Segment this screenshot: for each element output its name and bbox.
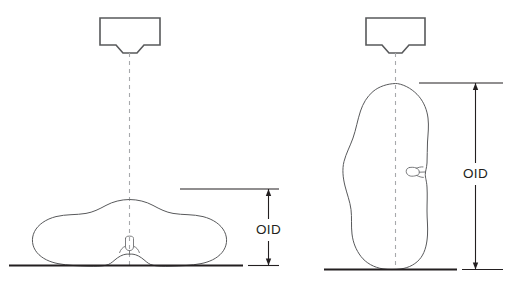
oid-arrowhead-bottom (266, 259, 271, 266)
oid-arrowhead-top (473, 83, 478, 90)
oid-dimension-lateral: OID (419, 83, 503, 270)
oid-arrowhead-top (266, 189, 271, 196)
tube-head-shape (100, 18, 160, 53)
vertebra-transverse-process-lower (417, 175, 424, 177)
vertebra-transverse-process-left (120, 246, 126, 252)
oid-dimension-ap: OID (180, 189, 281, 266)
x-ray-tube-head (366, 18, 425, 53)
oid-label-right: OID (463, 166, 488, 181)
diagram-root: OID (0, 0, 513, 286)
patient-outline-lateral (343, 83, 429, 269)
vertebra-transverse-process-right (134, 246, 140, 252)
patient-body-lateral (343, 83, 429, 269)
lateral-projection-panel: OID (324, 18, 503, 270)
vertebra-transverse-process-upper (416, 167, 423, 168)
oid-comparison-diagram: OID (0, 0, 513, 286)
x-ray-tube-head (100, 18, 160, 53)
tube-head-shape (366, 18, 425, 53)
oid-label-left: OID (256, 222, 281, 237)
vertebral-body (406, 167, 419, 176)
oid-arrowhead-bottom (473, 263, 478, 270)
vertebra-icon (406, 167, 425, 178)
ap-projection-panel: OID (9, 18, 281, 268)
